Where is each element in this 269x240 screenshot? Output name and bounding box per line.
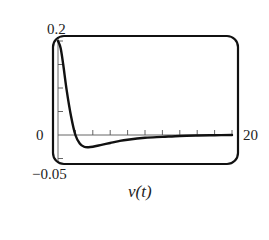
x-max-label: 20 [243,128,258,143]
chart-caption: v(t) [128,183,152,200]
y-zero-label: 0 [36,128,44,143]
y-min-label: −0.05 [32,167,67,182]
y-max-label: 0.2 [47,22,66,37]
